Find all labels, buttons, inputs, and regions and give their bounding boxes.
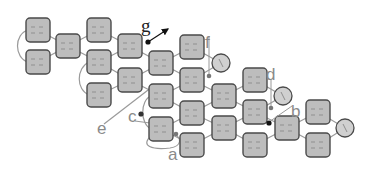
box-node	[212, 84, 236, 108]
f-dot	[207, 74, 212, 79]
box-node	[118, 68, 142, 92]
c-dot	[138, 111, 143, 116]
label-f: f	[205, 33, 210, 52]
label-a: a	[168, 145, 178, 164]
network-diagram: g f d b c e a	[0, 0, 369, 174]
box-node	[149, 117, 173, 141]
b-dot	[266, 120, 271, 125]
box-node	[149, 84, 173, 108]
box-node	[180, 101, 204, 125]
a-dot	[174, 132, 179, 137]
a-extra-line	[135, 121, 150, 123]
box-node	[306, 100, 330, 124]
box-node	[118, 34, 142, 58]
label-g: g	[141, 15, 151, 36]
label-d: d	[266, 65, 275, 84]
box-node	[180, 68, 204, 92]
box-node	[149, 51, 173, 75]
box-node	[180, 133, 204, 157]
box-node	[243, 68, 267, 92]
d-dot	[269, 106, 274, 111]
box-node	[56, 34, 80, 58]
box-node	[306, 133, 330, 157]
box-node	[243, 133, 267, 157]
box-node	[87, 50, 111, 74]
box-node	[243, 100, 267, 124]
g-arrow	[148, 29, 168, 42]
label-e: e	[97, 119, 106, 138]
box-node	[87, 18, 111, 42]
label-c: c	[128, 107, 137, 126]
box-node	[180, 35, 204, 59]
label-b: b	[291, 102, 300, 121]
box-node	[26, 18, 50, 42]
box-node	[87, 83, 111, 107]
box-node	[26, 50, 50, 74]
box-node	[212, 116, 236, 140]
